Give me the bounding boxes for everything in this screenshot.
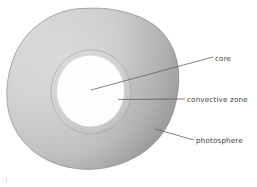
label-photosphere: photosphere	[196, 137, 243, 144]
core-region	[57, 55, 125, 127]
label-convective-zone: convective zone	[187, 96, 248, 103]
sun-illustration	[0, 0, 257, 187]
label-core: core	[215, 55, 231, 62]
sun-cross-section-diagram: core convective zone photosphere	[0, 0, 257, 187]
leader-line-convective-zone	[118, 99, 185, 100]
corner-mark	[6, 177, 7, 182]
